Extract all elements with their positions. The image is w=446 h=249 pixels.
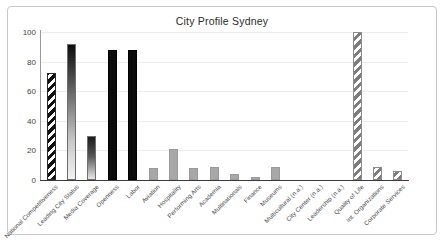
x-tick-label: Labor: [124, 183, 140, 199]
x-tick-label: Corporate Services: [362, 183, 406, 227]
x-axis-tick-labels: National CompetitivenessLeading City Sta…: [0, 0, 446, 249]
